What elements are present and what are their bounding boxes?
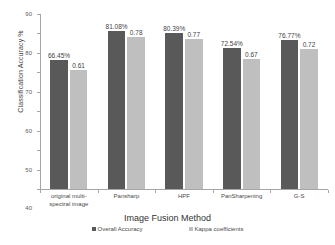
x-category-label: HPF <box>155 193 213 201</box>
y-tick-label: 80 <box>25 50 32 56</box>
x-category-label-line: PanSharpening <box>213 193 271 201</box>
legend-swatch-icon <box>189 227 193 231</box>
bar-kappa-coefficient[interactable]: 0.67 <box>243 59 261 189</box>
bar-kappa-coefficient[interactable]: 0.61 <box>70 70 88 189</box>
x-category-label: G-S <box>270 193 328 201</box>
x-category-label-line: spectral image <box>40 201 98 209</box>
x-category-label: PanSharpening <box>213 193 271 201</box>
y-tick-label: 70 <box>25 89 32 95</box>
bar-chart: Classification Accuracy % 01020304050607… <box>0 0 335 245</box>
bar-kappa-coefficient[interactable]: 0.78 <box>127 37 145 189</box>
y-tick-label: 60 <box>25 128 32 134</box>
x-category-label-line: G-S <box>270 193 328 201</box>
y-tick-label: 40 <box>25 205 32 211</box>
y-tick-label: 50 <box>25 167 32 173</box>
legend-item[interactable]: Kappa coefficients <box>189 226 244 232</box>
bar-value-label: 76.77% <box>278 32 300 39</box>
legend-label: Kappa coefficients <box>195 226 244 232</box>
bar-overall-accuracy[interactable]: 76.77% <box>281 40 299 189</box>
bar-value-label: 80.39% <box>163 25 185 32</box>
bar-overall-accuracy[interactable]: 80.39% <box>165 33 183 189</box>
x-category-label: Pansharp <box>98 193 156 201</box>
bar-overall-accuracy[interactable]: 72.54% <box>223 48 241 189</box>
legend-label: Overall Accuracy <box>98 226 143 232</box>
bar-kappa-coefficient[interactable]: 0.72 <box>300 49 318 189</box>
bar-overall-accuracy[interactable]: 66.45% <box>50 60 68 189</box>
bar-value-label: 0.78 <box>130 29 143 36</box>
bar-value-label: 81.08% <box>106 23 128 30</box>
chart-legend: Overall AccuracyKappa coefficients <box>0 226 335 232</box>
x-tick-mark <box>328 190 329 193</box>
x-category-label-line: original multi- <box>40 193 98 201</box>
x-axis-title: Image Fusion Method <box>0 213 335 223</box>
x-category-label-line: Pansharp <box>98 193 156 201</box>
bar-value-label: 0.77 <box>187 31 200 38</box>
bar-value-label: 66.45% <box>48 52 70 59</box>
plot-area: 0102030405060708090 66.45%0.6181.08%0.78… <box>40 14 328 190</box>
x-axis-line <box>40 189 328 190</box>
x-category-label-line: HPF <box>155 193 213 201</box>
bar-overall-accuracy[interactable]: 81.08% <box>108 31 126 189</box>
legend-item[interactable]: Overall Accuracy <box>92 226 143 232</box>
bar-group: 76.77%0.72 <box>270 14 328 189</box>
bar-value-label: 0.67 <box>245 51 258 58</box>
bar-kappa-coefficient[interactable]: 0.77 <box>185 39 203 189</box>
bar-group: 81.08%0.78 <box>98 14 156 189</box>
bar-value-label: 0.72 <box>303 41 316 48</box>
y-axis-title: Classification Accuracy % <box>17 7 24 137</box>
y-tick-label: 90 <box>25 11 32 17</box>
bar-group: 72.54%0.67 <box>213 14 271 189</box>
legend-swatch-icon <box>92 227 96 231</box>
bar-group: 80.39%0.77 <box>155 14 213 189</box>
bar-value-label: 0.61 <box>72 62 85 69</box>
x-category-label: original multi-spectral image <box>40 193 98 208</box>
bar-group: 66.45%0.61 <box>40 14 98 189</box>
bar-value-label: 72.54% <box>221 40 243 47</box>
